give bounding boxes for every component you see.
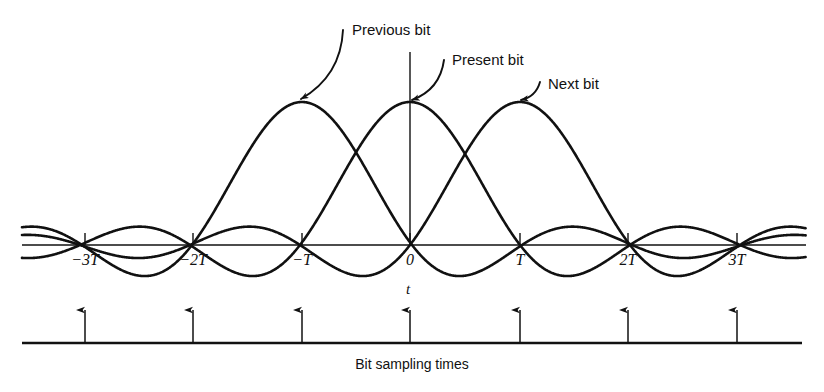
callout-label-next-bit: Next bit (548, 76, 599, 91)
time-axis (22, 52, 806, 245)
sinc-pulse-previous-bit-pulse (22, 102, 806, 276)
tick-label-minus-2T: −2T (169, 252, 217, 268)
callout-arrow-present-bit (412, 60, 444, 100)
sinc-pulse-present-bit-pulse (22, 102, 806, 276)
callout-arrow-previous-bit (301, 30, 343, 99)
callout-label-previous-bit: Previous bit (352, 22, 430, 37)
sinc-pulse-next-bit-pulse (22, 102, 806, 276)
sampling-caption: Bit sampling times (355, 357, 469, 371)
tick-label-2T: 2T (604, 252, 652, 268)
callout-label-present-bit: Present bit (452, 52, 524, 67)
callout-arrow-next-bit (521, 82, 540, 100)
tick-label-3T: 3T (713, 252, 761, 268)
tick-label-minus-T: −T (278, 252, 326, 268)
tick-label-minus-3T: −3T (61, 252, 109, 268)
tick-label-zero: 0 (386, 252, 434, 268)
tick-label-T: T (496, 252, 544, 268)
sampling-axis (22, 310, 802, 343)
sinc-pulse-figure: Previous bit Present bit Next bit −3T −2… (0, 0, 824, 392)
time-axis-variable-label: t (406, 282, 410, 297)
waveform-canvas (0, 0, 824, 392)
sinc-waveforms (22, 102, 806, 276)
